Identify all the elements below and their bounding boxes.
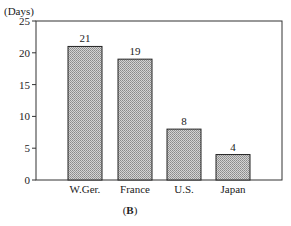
bar-chart: (Days) 0510152025 21W.Ger.19France8U.S.4… (0, 0, 291, 226)
bar-value-label: 21 (80, 32, 91, 44)
bar-value-label: 19 (130, 45, 142, 57)
y-axis-ticks: 0510152025 (19, 15, 36, 186)
y-tick-label: 25 (19, 15, 31, 27)
x-category-label: France (120, 183, 150, 195)
bar-japan (216, 155, 250, 180)
bar-value-label: 8 (181, 115, 187, 127)
y-tick-label: 10 (19, 110, 31, 122)
bar-wger (68, 46, 102, 180)
chart-caption: (B) (123, 204, 138, 217)
x-category-label: W.Ger. (70, 183, 101, 195)
y-tick-label: 0 (25, 174, 31, 186)
y-tick-label: 5 (25, 142, 31, 154)
bar-us (167, 129, 201, 180)
caption-close: ) (134, 204, 138, 217)
y-tick-label: 15 (19, 79, 31, 91)
bar-value-label: 4 (230, 141, 236, 153)
bars-group: 21W.Ger.19France8U.S.4Japan (68, 32, 250, 195)
y-tick-label: 20 (19, 47, 31, 59)
x-category-label: U.S. (174, 183, 194, 195)
x-category-label: Japan (220, 183, 246, 195)
bar-france (118, 59, 152, 180)
